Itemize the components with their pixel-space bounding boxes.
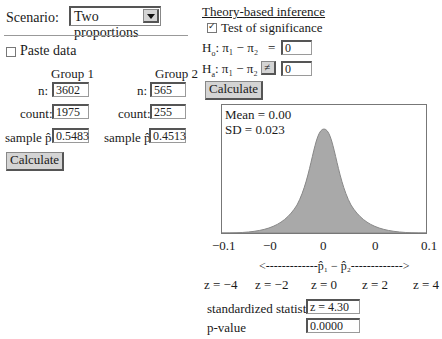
group1-n-input[interactable]: 3602 [52, 82, 89, 97]
std-stat-label: standardized statistic [207, 301, 316, 316]
pvalue-label: p-value [207, 320, 246, 335]
test-significance-checkbox[interactable]: ✓ [207, 23, 217, 33]
paste-data-label: Paste data [20, 43, 76, 58]
x-tick-4: 0.1 [421, 238, 437, 253]
x-tick-2: 0 [320, 238, 327, 253]
x-axis-label: <-------------p̂₁ − p̂₂-------------> [259, 259, 410, 274]
pvalue-output: 0.0000 [306, 318, 360, 333]
group2-phat-label: sample p̂: [104, 130, 154, 145]
scenario-label: Scenario: [6, 10, 59, 25]
ha-label: Ha: π₁ − π₂ [202, 61, 258, 82]
group2-n-label: n: [137, 83, 147, 98]
group1-phat-output: 0.5483 [52, 128, 89, 143]
z-tick-3: z = 2 [362, 277, 388, 292]
group2-phat-output: 0.4513 [149, 128, 186, 143]
group2-count-label: count: [118, 106, 151, 121]
group2-title: Group 2 [155, 66, 198, 81]
z-tick-2: z = 0 [311, 277, 337, 292]
section-title: Theory-based inference [202, 4, 325, 19]
h0-label: Ho: π₁ − π₂ [202, 40, 258, 61]
group2-count-input[interactable]: 255 [150, 104, 186, 119]
divider [4, 35, 188, 36]
left-calculate-button[interactable]: Calculate [6, 152, 64, 171]
check-icon: ✓ [208, 21, 216, 31]
z-tick-0: z = −4 [204, 277, 237, 292]
group1-count-input[interactable]: 1975 [52, 104, 89, 119]
ha-value-input[interactable]: 0 [281, 61, 312, 76]
group1-phat-label: sample p̂: [5, 130, 55, 145]
x-tick-0: −0.1 [212, 238, 236, 253]
h0-value-input[interactable]: 0 [281, 40, 312, 55]
x-tick-3: 0 [372, 238, 379, 253]
std-stat-output: z = 4.30 [306, 299, 360, 314]
group2-n-input[interactable]: 565 [150, 82, 186, 97]
group1-title: Group 1 [51, 66, 94, 81]
null-distribution-chart: Mean = 0.00 SD = 0.023 [221, 104, 427, 234]
group1-count-label: count: [20, 106, 53, 121]
paste-data-checkbox[interactable] [6, 47, 16, 57]
z-tick-1: z = −2 [255, 277, 288, 292]
group1-n-label: n: [38, 83, 48, 98]
chevron-down-icon[interactable] [143, 9, 159, 23]
x-tick-1: −0 [263, 238, 277, 253]
scenario-select[interactable]: Two proportions [69, 6, 161, 26]
z-tick-4: z = 4 [413, 277, 439, 292]
test-significance-label: Test of significance [221, 20, 323, 35]
normal-curve [222, 105, 426, 233]
h0-operator: = [268, 40, 275, 55]
ha-operator-button[interactable]: ≠ [261, 61, 276, 75]
right-calculate-button[interactable]: Calculate [205, 81, 263, 100]
